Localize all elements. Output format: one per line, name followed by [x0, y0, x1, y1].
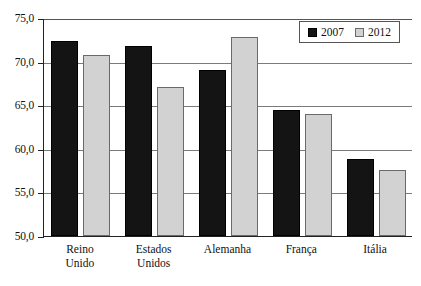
bar-2007-2	[125, 46, 152, 236]
chart-legend: 20072012	[299, 21, 400, 43]
y-axis-tick-mark	[38, 237, 44, 238]
x-axis-category-label: Alemanha	[191, 243, 265, 257]
bar-2007-5	[347, 159, 374, 236]
light-gray-square-swatch	[355, 28, 364, 37]
black-square-swatch	[308, 28, 317, 37]
bar-2007-4	[273, 110, 300, 236]
bar-2012-3	[231, 37, 258, 236]
y-axis-tick-label: 50,0	[0, 230, 34, 242]
x-axis-category-label: Estados Unidos	[117, 243, 191, 270]
x-axis-category-label: França	[264, 243, 338, 257]
y-axis-tick-label: 55,0	[0, 186, 34, 198]
y-axis-tick-mark	[38, 150, 44, 151]
x-axis-category-label: Reino Unido	[43, 243, 117, 270]
gridline	[44, 19, 412, 20]
x-axis-category-label: Itália	[338, 243, 412, 257]
legend-entry-2007: 2007	[308, 26, 344, 38]
y-axis-tick-label: 70,0	[0, 56, 34, 68]
legend-entry-2012: 2012	[355, 26, 391, 38]
y-axis-tick-mark	[38, 19, 44, 20]
y-axis-tick-label: 60,0	[0, 143, 34, 155]
legend-label: 2007	[321, 26, 344, 38]
y-axis-tick-label: 75,0	[0, 12, 34, 24]
y-axis-tick-mark	[38, 63, 44, 64]
bar-2012-2	[157, 87, 184, 236]
bar-2007-1	[51, 41, 78, 236]
bar-2007-3	[199, 70, 226, 236]
bar-2012-5	[379, 170, 406, 236]
bar-2012-1	[83, 55, 110, 236]
bar-chart: 75,070,065,060,055,050,0 Reino UnidoEsta…	[0, 0, 421, 286]
bar-2012-4	[305, 114, 332, 236]
y-axis-tick-mark	[38, 193, 44, 194]
y-axis-tick-label: 65,0	[0, 99, 34, 111]
y-axis-tick-mark	[38, 106, 44, 107]
legend-label: 2012	[368, 26, 391, 38]
plot-area	[43, 19, 412, 237]
